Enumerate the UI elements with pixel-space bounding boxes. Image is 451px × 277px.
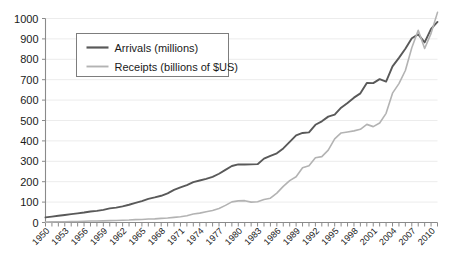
y-tick-label: 900 (20, 33, 38, 45)
y-tick-label: 800 (20, 53, 38, 65)
y-tick-labels: 01002003004005006007008009001000 (14, 13, 38, 229)
x-tick-label: 1962 (107, 226, 128, 247)
x-tick-labels: 1950195319561959196219651968197119741977… (30, 226, 437, 247)
x-tick-label: 1953 (49, 226, 70, 247)
x-tick-label: 1965 (127, 226, 148, 247)
x-tick-label: 1989 (281, 226, 302, 247)
x-tick-label: 1950 (30, 226, 51, 247)
x-tick-label: 1998 (339, 226, 360, 247)
x-tick-label: 1956 (69, 226, 90, 247)
tourism-line-chart: 01002003004005006007008009001000 1950195… (0, 0, 451, 277)
x-tick-label: 2004 (377, 226, 398, 247)
y-tick-label: 100 (20, 196, 38, 208)
x-tick-label: 2001 (358, 226, 379, 247)
x-tick-label: 1992 (300, 226, 321, 247)
x-tick-label: 1986 (262, 226, 283, 247)
x-tick-label: 1995 (319, 226, 340, 247)
chart-legend: Arrivals (millions)Receipts (billions of… (77, 34, 239, 77)
y-tick-label: 700 (20, 74, 38, 86)
legend-label-arrivals: Arrivals (millions) (115, 42, 199, 54)
y-tick-label: 0 (32, 217, 38, 229)
x-tick-label: 2010 (416, 226, 437, 247)
legend-label-receipts: Receipts (billions of $US) (115, 61, 239, 73)
y-tick-label: 300 (20, 155, 38, 167)
y-tick-label: 400 (20, 135, 38, 147)
chart-canvas: 01002003004005006007008009001000 1950195… (0, 0, 451, 277)
x-axis (46, 223, 438, 227)
y-tick-label: 500 (20, 115, 38, 127)
y-axis (42, 19, 46, 223)
x-tick-label: 1959 (88, 226, 109, 247)
x-tick-label: 1983 (242, 226, 263, 247)
x-tick-label: 1968 (146, 226, 167, 247)
x-tick-label: 1977 (204, 226, 225, 247)
x-tick-label: 1974 (184, 226, 205, 247)
x-tick-label: 1980 (223, 226, 244, 247)
y-tick-label: 1000 (14, 13, 38, 25)
x-tick-label: 1971 (165, 226, 186, 247)
y-tick-label: 200 (20, 176, 38, 188)
x-tick-label: 2007 (396, 226, 417, 247)
y-tick-label: 600 (20, 94, 38, 106)
